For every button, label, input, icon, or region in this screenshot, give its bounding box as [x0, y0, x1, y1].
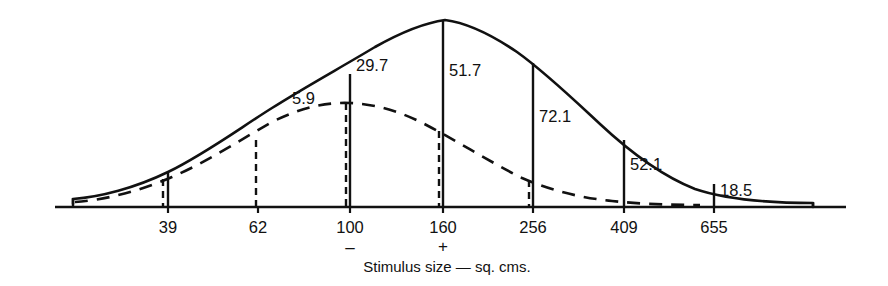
solid-dividers-group [168, 20, 714, 207]
tick-label-256: 256 [519, 219, 547, 236]
tick-label-39: 39 [159, 219, 177, 236]
tick-label-409: 409 [610, 219, 638, 236]
segment-value-5-9: 5.9 [292, 90, 315, 107]
tick-label-655: 655 [700, 219, 728, 236]
segment-value-18-5: 18.5 [720, 182, 752, 199]
segment-value-52-1: 52.1 [630, 156, 662, 173]
segment-value-51-7: 51.7 [449, 62, 481, 79]
tick-label-62: 62 [249, 219, 267, 236]
tick-label-100: 100 [336, 219, 364, 236]
distribution-figure: 5.9 29.7 51.7 72.1 52.1 18.5 39 62 100 1… [0, 0, 888, 286]
minus-sign-annotation: – [345, 239, 354, 256]
dashed-dividers-group [163, 103, 529, 207]
tick-label-160: 160 [429, 219, 457, 236]
x-axis-caption: Stimulus size — sq. cms. [363, 259, 531, 274]
plus-sign-annotation: + [438, 238, 448, 255]
segment-value-72-1: 72.1 [539, 108, 571, 125]
segment-value-29-7: 29.7 [356, 57, 388, 74]
